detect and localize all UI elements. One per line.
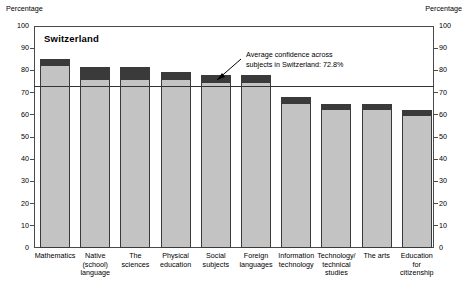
left-axis-caption: Percentage [6,4,43,13]
y-tick-label: 70 [439,89,447,96]
y-tick-label: 10 [439,222,447,229]
bar-3 [120,67,150,248]
bar-6 [241,75,271,248]
y-tick-mark [434,114,438,115]
y-tick-mark [30,92,34,93]
bar-segment-lower [322,110,350,247]
y-tick-label: 80 [21,66,29,73]
y-tick-label: 20 [439,200,447,207]
y-tick-mark [434,137,438,138]
y-tick-label: 90 [439,44,447,51]
category-label-10: Education for citizenship [396,252,438,278]
y-tick-mark [434,203,438,204]
y-tick-mark [434,225,438,226]
y-tick-label: 0 [25,244,29,251]
category-label-3: The sciences [114,252,156,269]
category-label-4: Physical education [155,252,197,269]
bar-segment-lower [202,83,230,247]
y-tick-mark [30,181,34,182]
category-label-6: Foreign languages [235,252,277,269]
y-tick-label: 30 [439,177,447,184]
y-tick-label: 80 [439,66,447,73]
bar-segment-lower [121,80,149,247]
bar-segment-lower [282,104,310,247]
bar-10 [402,110,432,248]
y-tick-label: 0 [439,244,443,251]
y-tick-label: 50 [439,133,447,140]
bar-segment-lower [242,83,270,247]
category-label-1: Mathematics [34,252,76,261]
average-reference-line [34,86,434,87]
y-tick-label: 60 [439,111,447,118]
bar-4 [161,72,191,248]
bar-segment-lower [41,66,69,247]
bar-2 [80,67,110,248]
y-tick-label: 100 [17,22,29,29]
bar-segment-lower [363,110,391,247]
y-tick-mark [30,159,34,160]
y-tick-label: 30 [21,177,29,184]
y-tick-mark [30,114,34,115]
right-axis-caption: Percentage [425,4,462,13]
category-label-2: Native (school) language [74,252,116,278]
category-label-9: The arts [356,252,398,261]
y-tick-mark [30,48,34,49]
category-label-5: Social subjects [195,252,237,269]
y-tick-mark [30,70,34,71]
y-tick-label: 20 [21,200,29,207]
y-tick-label: 40 [21,155,29,162]
bar-segment-lower [81,80,109,247]
y-tick-mark [30,225,34,226]
y-tick-mark [434,48,438,49]
bar-5 [201,75,231,248]
bar-segment-lower [162,80,190,247]
y-tick-mark [434,70,438,71]
bar-segment-lower [403,116,431,247]
chart-screenshot: Percentage Percentage 001010202030304040… [0,0,468,291]
y-tick-mark [30,137,34,138]
y-tick-mark [434,92,438,93]
bar-9 [362,104,392,248]
bar-7 [281,97,311,248]
y-tick-mark [434,181,438,182]
y-tick-label: 90 [21,44,29,51]
y-tick-label: 10 [21,222,29,229]
annotation-arrow-icon [205,56,245,86]
category-label-8: Technology/ technical studies [315,252,357,278]
y-tick-label: 70 [21,89,29,96]
y-tick-label: 50 [21,133,29,140]
y-tick-label: 40 [439,155,447,162]
chart-title: Switzerland [44,33,99,44]
average-annotation-label: Average confidence across subjects in Sw… [246,50,343,69]
bar-8 [321,104,351,248]
y-tick-mark [30,203,34,204]
y-tick-label: 60 [21,111,29,118]
y-tick-label: 100 [439,22,451,29]
category-label-7: Information technology [275,252,317,269]
y-tick-mark [434,159,438,160]
